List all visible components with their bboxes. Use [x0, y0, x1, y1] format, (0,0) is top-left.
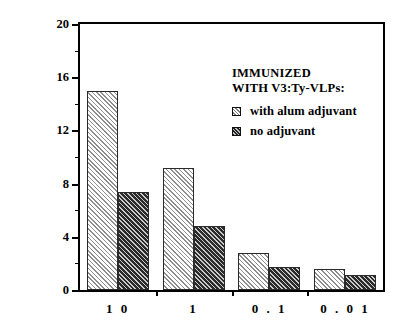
bar-chart-figure: STIMULATION INDEX 0481216201 010 . 10 . …: [0, 0, 400, 333]
legend-entry-list: with alum adjuvant no adjuvant: [232, 103, 357, 140]
legend-swatch-icon: [232, 127, 241, 136]
y-axis-tick-label: 12: [57, 123, 70, 138]
legend-title-line-1: IMMUNIZED: [232, 66, 357, 81]
y-axis-tick: [72, 290, 80, 292]
x-axis-tick: [156, 290, 158, 296]
bar: [163, 168, 194, 290]
bar: [118, 192, 149, 290]
legend-item-label: no adjuvant: [250, 124, 315, 139]
y-axis-tick-label: 20: [57, 17, 70, 32]
legend-swatch-icon: [232, 107, 241, 116]
bar: [345, 275, 376, 290]
y-axis-minor-tick: [75, 104, 80, 105]
bar: [87, 91, 118, 291]
legend-item: no adjuvant: [232, 123, 357, 140]
y-axis-tick: [72, 184, 80, 186]
y-axis-minor-tick: [75, 51, 80, 52]
y-axis-minor-tick: [75, 210, 80, 211]
x-axis-tick-label: 1 0: [106, 301, 130, 317]
bar: [269, 267, 300, 290]
y-axis-tick: [72, 77, 80, 79]
x-axis-tick: [232, 290, 234, 296]
y-axis-tick: [72, 237, 80, 239]
y-axis-tick: [72, 24, 80, 26]
bar: [194, 226, 225, 290]
y-axis-tick-label: 16: [57, 70, 70, 85]
bar: [314, 269, 345, 290]
x-axis-tick-label: 0 . 1: [252, 301, 287, 317]
y-axis-minor-tick: [75, 263, 80, 264]
y-axis-tick-label: 0: [63, 283, 69, 298]
bar: [238, 253, 269, 290]
y-axis-minor-tick: [75, 157, 80, 158]
legend-title-line-2: WITH V3:Ty-VLPs:: [232, 81, 357, 96]
x-axis-tick-label: 1: [189, 301, 198, 317]
y-axis-tick: [72, 130, 80, 132]
y-axis-tick-label: 8: [63, 176, 69, 191]
y-axis-tick-label: 4: [63, 229, 69, 244]
legend-item: with alum adjuvant: [232, 103, 357, 120]
legend: IMMUNIZED WITH V3:Ty-VLPs: with alum adj…: [232, 66, 357, 143]
plot-area: 0481216201 010 . 10 . 0 1: [78, 22, 385, 292]
x-axis-tick: [307, 290, 309, 296]
legend-item-label: with alum adjuvant: [250, 104, 357, 119]
x-axis-tick-label: 0 . 0 1: [320, 301, 370, 317]
